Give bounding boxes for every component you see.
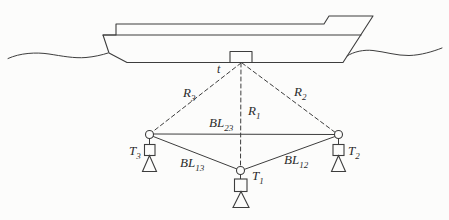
baseline-13-label: BL13 [180,155,205,173]
range-3-label: R3 [182,85,196,103]
transponder-1-body-icon [235,179,248,192]
range-2-label: R2 [293,84,307,102]
transponder-3-body-icon [145,145,156,156]
baseline-23-label: BL23 [209,115,234,133]
baseline-line-23 [153,134,335,135]
range-lines [151,63,336,167]
transducer-label: t [217,62,221,76]
transponder-3-label: T3 [129,143,141,161]
transponder-1-label: T1 [252,168,264,186]
ship-outline [103,16,373,63]
transponder-2-label: T2 [348,143,360,161]
transponder-3-head-icon [146,131,154,139]
range-line-r1 [241,63,242,167]
range-1-label: R1 [247,103,260,121]
transponder-2-tripod-icon [332,156,346,172]
transponder-2-head-icon [335,131,343,139]
transponder-1 [233,167,249,208]
water-wave-left [8,53,108,59]
baseline-12-label: BL12 [284,152,309,170]
transponder-1-head-icon [237,167,245,175]
transponder-3-tripod-icon [143,156,157,172]
range-line-r2 [242,63,336,133]
diagram-svg: t R3 R1 R2 BL23 BL13 BL12 T3 T1 T2 [0,0,449,220]
lbl-positioning-diagram: t R3 R1 R2 BL23 BL13 BL12 T3 T1 T2 [0,0,449,220]
ship-hull [103,16,373,63]
water-wave-right [347,48,442,56]
transponder-1-tripod-icon [233,192,249,208]
transponder-2-body-icon [333,145,344,156]
transducer-housing [230,52,252,63]
